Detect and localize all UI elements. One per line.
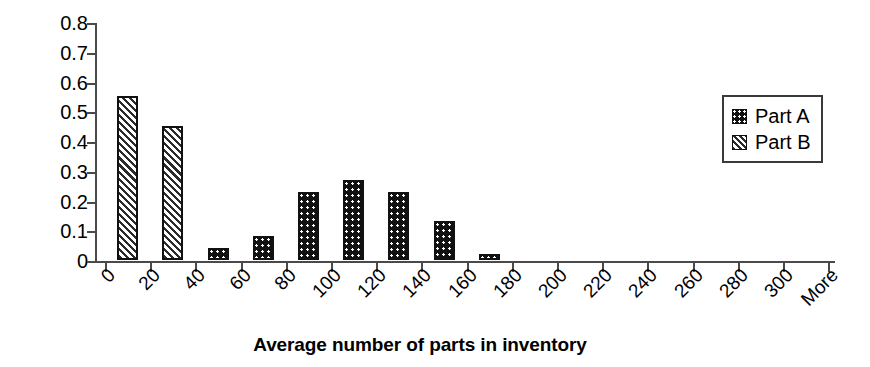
legend-swatch-icon <box>732 109 747 124</box>
bar <box>434 221 455 260</box>
relative-frequency-histogram: Relative frequency 0.80.70.60.50.40.30.2… <box>0 0 870 367</box>
y-axis-tick-mark <box>87 231 97 233</box>
legend-label: Part A <box>755 106 809 126</box>
y-axis-tick-mark <box>87 261 97 263</box>
y-axis-tick-mark <box>87 112 97 114</box>
y-axis-tick-mark <box>87 202 97 204</box>
bar <box>253 236 274 260</box>
x-axis-title: Average number of parts in inventory <box>95 334 745 356</box>
x-axis-tick-labels: 0204060801001201401601802002202402602803… <box>95 265 870 325</box>
y-axis-tick-label: 0 <box>42 251 88 271</box>
y-axis-tick-label: 0.3 <box>42 162 88 182</box>
y-axis-tick-label: 0.5 <box>42 102 88 122</box>
y-axis-tick-mark <box>87 142 97 144</box>
bar <box>162 126 183 260</box>
legend-label: Part B <box>755 132 811 152</box>
legend-item: Part B <box>732 129 811 155</box>
bar <box>208 248 229 260</box>
y-axis-tick-label: 0.7 <box>42 43 88 63</box>
x-axis-line <box>95 261 835 263</box>
bar <box>298 192 319 260</box>
bar <box>479 254 500 260</box>
y-axis-tick-label: 0.8 <box>42 13 88 33</box>
y-axis-tick-mark <box>87 23 97 25</box>
bar <box>117 96 138 260</box>
y-axis-tick-mark <box>87 53 97 55</box>
bar <box>388 192 409 260</box>
legend: Part APart B <box>722 95 823 163</box>
y-axis-tick-label: 0.1 <box>42 221 88 241</box>
y-axis-tick-label: 0.2 <box>42 192 88 212</box>
legend-item: Part A <box>732 103 811 129</box>
y-axis-tick-label: 0.6 <box>42 73 88 93</box>
y-axis-tick-mark <box>87 83 97 85</box>
bar <box>343 180 364 260</box>
legend-swatch-icon <box>732 135 747 150</box>
y-axis-tick-mark <box>87 172 97 174</box>
y-axis-tick-label: 0.4 <box>42 132 88 152</box>
